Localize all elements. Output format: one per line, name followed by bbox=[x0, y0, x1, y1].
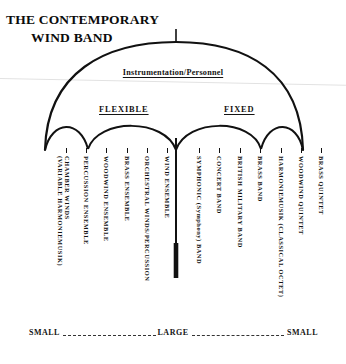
ensemble-label-chamber-winds: CHAMBER WINDS(VARIABLE HARMONIEMUSIK) bbox=[57, 156, 70, 266]
ensemble-label-line: BRASS BAND bbox=[257, 156, 264, 202]
ensemble-tick-harmoniemusik bbox=[281, 148, 282, 153]
ensemble-label-line: CONCERT BAND bbox=[216, 156, 223, 214]
ensemble-tick-british-military-band bbox=[240, 148, 241, 153]
size-scale: SMALL LARGE SMALL bbox=[0, 328, 346, 342]
ensemble-label-line: HARMONIEMUSIK (CLASSICAL OCTET) bbox=[278, 156, 285, 297]
ensemble-tick-brass-ensemble bbox=[127, 148, 128, 153]
ensemble-label-symphonic-band: SYMPHONIC (Symphony) BAND bbox=[196, 156, 203, 264]
ensemble-label-concert-band: CONCERT BAND bbox=[216, 156, 223, 214]
ensemble-label-line: ORCHESTRAL WINDS/PERCUSSION bbox=[144, 156, 151, 281]
ensemble-label-line: WIND ENSEMBLE bbox=[164, 156, 171, 218]
ensemble-label-line: CHAMBER WINDS bbox=[63, 156, 70, 266]
fixed-category-label: FIXED bbox=[224, 105, 255, 114]
wind-band-umbrella-diagram: THE CONTEMPORARY WIND BAND Instrumentati… bbox=[0, 0, 346, 364]
umbrella-scallop-2 bbox=[88, 126, 176, 150]
umbrella-scallop-3 bbox=[176, 126, 261, 150]
ensemble-label-line: BRASS ENSEMBLE bbox=[124, 156, 131, 221]
ensemble-tick-symphonic-band bbox=[199, 148, 200, 153]
ensemble-label-harmoniemusik: HARMONIEMUSIK (CLASSICAL OCTET) bbox=[278, 156, 285, 297]
ensemble-label-brass-band: BRASS BAND bbox=[257, 156, 264, 202]
ensemble-label-percussion-ensemble: PERCUSSION ENSEMBLE bbox=[83, 156, 90, 245]
ensemble-label-orchestral-winds: ORCHESTRAL WINDS/PERCUSSION bbox=[144, 156, 151, 281]
ensemble-tick-woodwind-ensemble bbox=[106, 148, 107, 153]
ensemble-label-line: (VARIABLE HARMONIEMUSIK) bbox=[57, 156, 64, 266]
ensemble-tick-chamber-winds bbox=[66, 148, 67, 153]
ensemble-label-wind-ensemble: WIND ENSEMBLE bbox=[164, 156, 171, 218]
ensemble-label-line: BRASS QUINTET bbox=[318, 156, 325, 215]
umbrella-graphic bbox=[0, 0, 346, 364]
umbrella-scallop-1 bbox=[45, 127, 88, 150]
flexible-category-label: FLEXIBLE bbox=[99, 105, 149, 114]
umbrella-scallop-4 bbox=[261, 127, 303, 150]
scale-dashes-left bbox=[63, 335, 156, 336]
ensemble-tick-concert-band bbox=[219, 148, 220, 153]
ensemble-tick-percussion-ensemble bbox=[86, 148, 87, 153]
ensemble-tick-woodwind-quintet bbox=[301, 148, 302, 153]
ensemble-label-line: WOODWIND ENSEMBLE bbox=[103, 156, 110, 242]
ensemble-tick-orchestral-winds bbox=[147, 148, 148, 153]
ensemble-label-woodwind-quintet: WOODWIND QUINTET bbox=[298, 156, 305, 235]
ensemble-label-brass-quintet: BRASS QUINTET bbox=[318, 156, 325, 215]
ensemble-label-line: PERCUSSION ENSEMBLE bbox=[83, 156, 90, 245]
ensemble-tick-wind-ensemble bbox=[167, 148, 168, 153]
ensemble-label-line: BRITISH MILITARY BAND bbox=[237, 156, 244, 248]
umbrella-canopy-arc bbox=[45, 42, 303, 150]
ensemble-label-line: SYMPHONIC (Symphony) BAND bbox=[196, 156, 203, 264]
ensemble-tick-brass-quintet bbox=[321, 148, 322, 153]
scale-label-small-right: SMALL bbox=[287, 328, 318, 337]
ensemble-label-line: WOODWIND QUINTET bbox=[298, 156, 305, 235]
ensemble-label-brass-ensemble: BRASS ENSEMBLE bbox=[124, 156, 131, 221]
ensemble-tick-brass-band bbox=[260, 148, 261, 153]
scale-label-large: LARGE bbox=[158, 328, 189, 337]
scale-label-small-left: SMALL bbox=[29, 328, 60, 337]
ensemble-label-woodwind-ensemble: WOODWIND ENSEMBLE bbox=[103, 156, 110, 242]
ensemble-label-british-military-band: BRITISH MILITARY BAND bbox=[237, 156, 244, 248]
scale-dashes-right bbox=[192, 335, 284, 336]
instrumentation-personnel-label: Instrumentation/Personnel bbox=[123, 68, 223, 77]
